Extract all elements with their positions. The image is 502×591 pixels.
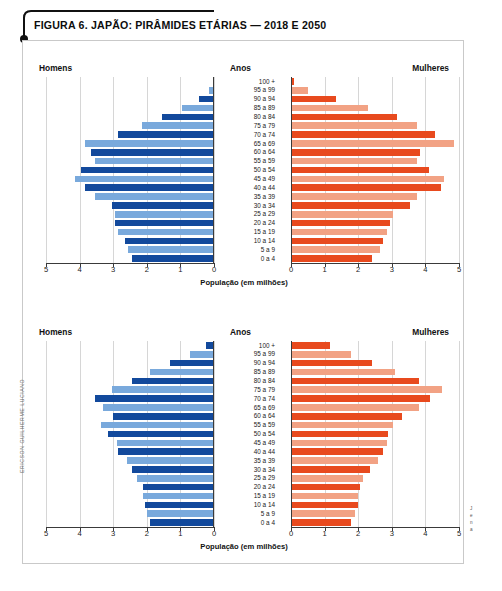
pyramid-bar-row bbox=[46, 78, 214, 85]
pyramid-bar-row bbox=[46, 431, 214, 438]
pyramid-bar-row bbox=[291, 493, 459, 500]
pyramid-bar bbox=[132, 466, 214, 473]
pyramid-bar-row bbox=[291, 484, 459, 491]
pyramid-bar bbox=[291, 510, 355, 517]
age-group-label: 20 a 24 bbox=[219, 219, 275, 226]
axis-tick-label: 4 bbox=[77, 529, 81, 538]
age-group-label: 25 a 29 bbox=[219, 474, 275, 481]
side-caption-line-1: J bbox=[470, 505, 502, 512]
pyramid-bar bbox=[291, 105, 368, 112]
axis-tick-label: 2 bbox=[145, 529, 149, 538]
pyramid-bar-row bbox=[46, 140, 214, 147]
axis-ticks-male-2050: 543210 bbox=[46, 529, 214, 541]
pyramid-bar bbox=[291, 502, 358, 509]
age-group-label: 0 a 4 bbox=[219, 519, 275, 526]
pyramid-bar bbox=[291, 149, 420, 156]
axis-x-female-2018 bbox=[291, 263, 459, 264]
age-group-label: 85 a 89 bbox=[219, 368, 275, 375]
pyramid-bar-row bbox=[291, 351, 459, 358]
plot-area-male-2050 bbox=[46, 341, 214, 527]
pyramid-bar bbox=[291, 431, 388, 438]
pyramid-bar bbox=[291, 220, 390, 227]
age-group-label: 45 a 49 bbox=[219, 175, 275, 182]
age-group-label: 90 a 94 bbox=[219, 359, 275, 366]
axis-center-male-2050 bbox=[213, 341, 214, 527]
pyramid-bar-row bbox=[291, 149, 459, 156]
pyramid-bar-row bbox=[46, 404, 214, 411]
axis-tick-label: 0 bbox=[212, 265, 216, 274]
pyramid-bar bbox=[291, 122, 417, 129]
age-group-label: 10 a 14 bbox=[219, 501, 275, 508]
pyramid-bar-row bbox=[46, 176, 214, 183]
gridline bbox=[214, 77, 215, 263]
age-group-label: 15 a 19 bbox=[219, 492, 275, 499]
bars-female-2018 bbox=[291, 77, 459, 263]
pyramid-bar-row bbox=[46, 369, 214, 376]
pyramid-bar bbox=[291, 440, 387, 447]
pyramid-bar-row bbox=[291, 229, 459, 236]
pyramid-bar bbox=[291, 360, 372, 367]
pyramid-bar bbox=[132, 378, 214, 385]
pyramid-bar bbox=[291, 211, 393, 218]
pyramid-bar bbox=[118, 229, 214, 236]
pyramid-bar bbox=[291, 351, 351, 358]
age-group-label: 55 a 59 bbox=[219, 421, 275, 428]
pyramid-bar-row bbox=[46, 87, 214, 94]
pyramid-bar bbox=[117, 440, 214, 447]
age-group-label: 15 a 19 bbox=[219, 228, 275, 235]
age-labels-2050: 100 +95 a 9990 a 9485 a 8980 a 8475 a 79… bbox=[219, 341, 285, 527]
age-group-label: 90 a 94 bbox=[219, 95, 275, 102]
axis-x-female-2050 bbox=[291, 527, 459, 528]
bars-female-2050 bbox=[291, 341, 459, 527]
pyramid-bar-row bbox=[291, 413, 459, 420]
pyramid-bar-row bbox=[291, 114, 459, 121]
pyramid-bar bbox=[115, 220, 214, 227]
pyramid-bar bbox=[150, 369, 214, 376]
plot-area-female-2018 bbox=[291, 77, 459, 263]
bars-male-2050 bbox=[46, 341, 214, 527]
age-group-label: 35 a 39 bbox=[219, 457, 275, 464]
age-group-label: 65 a 69 bbox=[219, 404, 275, 411]
axis-tick-label: 3 bbox=[111, 265, 115, 274]
pyramid-bar bbox=[291, 519, 351, 526]
pyramid-bar bbox=[170, 360, 214, 367]
age-group-label: 75 a 79 bbox=[219, 386, 275, 393]
gridline bbox=[214, 341, 215, 527]
pyramid-bar bbox=[91, 149, 214, 156]
age-group-label: 40 a 44 bbox=[219, 448, 275, 455]
population-pyramid-2050: Homens Anos Mulheres 100 +95 a 9990 a 94… bbox=[23, 307, 465, 562]
pyramid-bar bbox=[291, 448, 383, 455]
pyramid-bar bbox=[291, 176, 444, 183]
age-group-label: 20 a 24 bbox=[219, 483, 275, 490]
page-title: FIGURA 6. JAPÃO: PIRÂMIDES ETÁRIAS — 201… bbox=[34, 19, 326, 31]
gridline bbox=[459, 341, 460, 527]
pyramid-bar-row bbox=[46, 466, 214, 473]
axis-tick-label: 5 bbox=[457, 265, 461, 274]
pyramid-bar-row bbox=[46, 238, 214, 245]
pyramid-bar-row bbox=[291, 105, 459, 112]
axis-tick-label: 2 bbox=[356, 529, 360, 538]
axis-tick-label: 3 bbox=[390, 529, 394, 538]
pyramid-bar-row bbox=[291, 193, 459, 200]
axis-tick-label: 0 bbox=[289, 265, 293, 274]
pyramid-bar bbox=[291, 413, 402, 420]
age-group-label: 40 a 44 bbox=[219, 184, 275, 191]
pyramid-bar-row bbox=[46, 448, 214, 455]
pyramid-bar-row bbox=[46, 510, 214, 517]
pyramid-bar bbox=[291, 255, 372, 262]
chart-label-mulheres: Mulheres bbox=[412, 63, 449, 73]
age-group-label: 100 + bbox=[219, 78, 275, 85]
pyramid-bar-row bbox=[46, 502, 214, 509]
chart-label-anos-2050: Anos bbox=[230, 327, 251, 337]
population-pyramid-2018: Homens Anos Mulheres 100 +95 a 9990 a 94… bbox=[23, 43, 465, 298]
pyramid-bar-row bbox=[46, 422, 214, 429]
pyramid-bar-row bbox=[46, 229, 214, 236]
pyramid-bar-row bbox=[46, 149, 214, 156]
pyramid-bar bbox=[291, 238, 383, 245]
pyramid-bar-row bbox=[46, 519, 214, 526]
axis-tick-label: 4 bbox=[423, 529, 427, 538]
pyramid-bar-row bbox=[291, 369, 459, 376]
pyramid-bar-row bbox=[291, 404, 459, 411]
pyramid-bar-row bbox=[291, 360, 459, 367]
plot-area-female-2050 bbox=[291, 341, 459, 527]
